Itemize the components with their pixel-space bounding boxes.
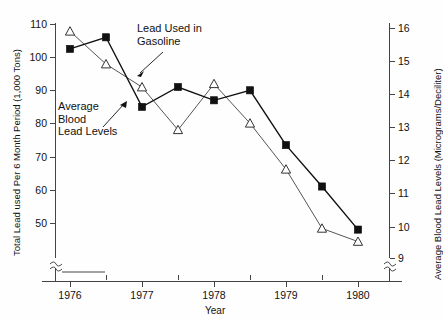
axis-break-left [50, 262, 62, 271]
data-point-blood-0 [65, 27, 74, 35]
leader-blood [103, 101, 127, 127]
data-point-blood-2 [137, 83, 146, 91]
series-gasoline-markers [66, 34, 361, 234]
data-point-gasoline-2 [138, 103, 145, 110]
series-gasoline-line [70, 37, 358, 229]
leader-gasoline [137, 52, 163, 77]
data-point-gasoline-8 [354, 226, 361, 233]
data-point-gasoline-0 [66, 45, 73, 52]
series-blood-lead-levels [65, 27, 362, 246]
series-lead-in-gasoline [66, 34, 361, 234]
data-point-blood-4 [209, 79, 218, 87]
axis-break-right [384, 262, 396, 271]
data-point-gasoline-3 [174, 83, 181, 90]
data-point-blood-8 [353, 237, 362, 245]
data-point-gasoline-7 [318, 183, 325, 190]
data-point-gasoline-5 [246, 87, 253, 94]
data-point-blood-7 [317, 224, 326, 232]
data-point-gasoline-6 [282, 142, 289, 149]
series-blood-lead-markers [65, 27, 362, 246]
data-point-gasoline-1 [102, 34, 109, 41]
series-blood-lead-line [70, 31, 358, 241]
data-point-gasoline-4 [210, 97, 217, 104]
